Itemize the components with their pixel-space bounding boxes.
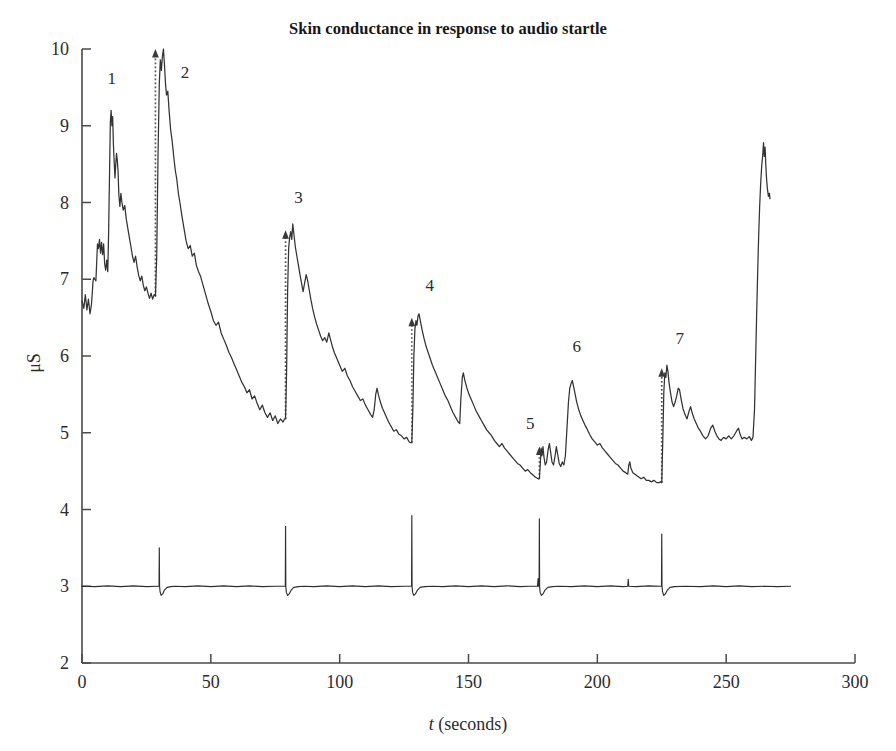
x-axis-label-units: (seconds) bbox=[434, 714, 507, 735]
chart-background bbox=[0, 0, 896, 751]
y-tick-label: 8 bbox=[60, 193, 69, 213]
event-label-3: 3 bbox=[294, 188, 303, 207]
figure-container: Skin conductance in response to audio st… bbox=[0, 0, 896, 751]
event-label-5: 5 bbox=[526, 414, 535, 433]
y-tick-label: 6 bbox=[60, 346, 69, 366]
event-label-6: 6 bbox=[572, 337, 581, 356]
skin-conductance-chart: Skin conductance in response to audio st… bbox=[0, 0, 896, 751]
event-label-4: 4 bbox=[426, 276, 435, 295]
x-tick-label: 300 bbox=[842, 672, 869, 692]
y-tick-label: 3 bbox=[60, 576, 69, 596]
x-tick-label: 200 bbox=[584, 672, 611, 692]
y-tick-label: 5 bbox=[60, 423, 69, 443]
x-tick-label: 0 bbox=[78, 672, 87, 692]
y-tick-label: 7 bbox=[60, 269, 69, 289]
y-tick-label: 4 bbox=[60, 500, 69, 520]
x-tick-label: 150 bbox=[455, 672, 482, 692]
chart-title: Skin conductance in response to audio st… bbox=[289, 19, 607, 38]
x-tick-label: 100 bbox=[326, 672, 353, 692]
x-tick-label: 250 bbox=[713, 672, 740, 692]
y-tick-label: 2 bbox=[60, 653, 69, 673]
event-label-2: 2 bbox=[181, 63, 190, 82]
y-axis-label: μS bbox=[24, 353, 44, 373]
y-tick-label: 10 bbox=[51, 39, 69, 59]
y-tick-label: 9 bbox=[60, 116, 69, 136]
x-axis-label: t (seconds) bbox=[429, 714, 508, 735]
event-label-7: 7 bbox=[676, 329, 685, 348]
x-tick-label: 50 bbox=[202, 672, 220, 692]
event-label-1: 1 bbox=[107, 69, 116, 88]
